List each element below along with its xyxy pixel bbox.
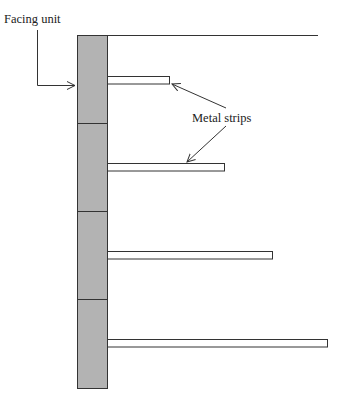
facing-unit-3 [78,212,108,300]
reinforced-wall-diagram: Facing unit Metal strips [0,0,344,401]
metal-strip-4 [108,340,328,348]
facing-unit-1 [78,36,108,124]
facing-unit-2 [78,124,108,212]
metal-strip-1 [108,77,170,85]
facing-unit-4 [78,300,108,389]
metal-strip-arrow-upper-icon [172,84,226,108]
metal-strip-3 [108,252,273,260]
metal-strips-label: Metal strips [192,111,252,125]
metal-strip-arrow-lower-icon [187,126,226,162]
facing-unit-arrow-icon [38,30,76,86]
facing-unit-label: Facing unit [4,12,61,26]
metal-strip-2 [108,164,225,172]
facing-column [78,36,108,389]
